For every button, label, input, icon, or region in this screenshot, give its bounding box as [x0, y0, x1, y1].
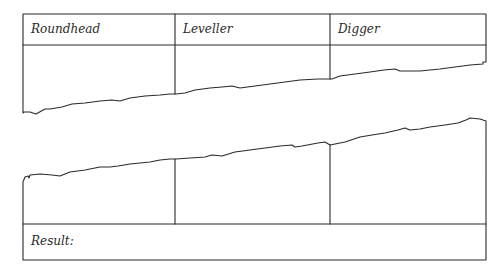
torn-table-diagram: Roundhead Leveller Digger Result: [0, 0, 501, 276]
column-header-digger: Digger [338, 22, 380, 36]
column-header-roundhead: Roundhead [31, 22, 100, 36]
table-lines [0, 0, 501, 276]
column-header-leveller: Leveller [183, 22, 232, 36]
lower-piece-outline [23, 118, 486, 260]
result-label: Result: [31, 234, 74, 248]
